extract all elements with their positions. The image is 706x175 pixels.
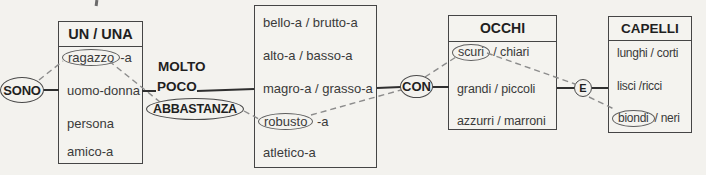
item-rest: / neri bbox=[655, 111, 680, 125]
diagram-canvas: UN / UNA ragazzo-a uomo-donna persona am… bbox=[0, 0, 706, 175]
box-un-una-title: UN / UNA bbox=[59, 22, 142, 47]
node-abbastanza: ABBASTANZA bbox=[146, 98, 244, 120]
list-item-amico: amico-a bbox=[67, 143, 141, 161]
box-capelli-title: CAPELLI bbox=[609, 17, 691, 41]
circled-word-ragazzo: ragazzo bbox=[62, 49, 120, 66]
list-item-lunghi: lunghi / corti bbox=[617, 44, 690, 62]
list-item-ragazzo: ragazzo-a bbox=[67, 49, 141, 67]
list-item-grandi: grandi / piccoli bbox=[457, 80, 555, 98]
item-rest: -a bbox=[313, 114, 328, 129]
label-molto: MOLTO bbox=[158, 58, 206, 76]
list-item-persona: persona bbox=[67, 115, 141, 133]
list-item-atletico: atletico-a bbox=[263, 144, 375, 162]
circled-word-robusto: robusto bbox=[258, 113, 313, 130]
node-e: E bbox=[574, 79, 592, 97]
list-item-magro: magro-a / grasso-a bbox=[263, 80, 375, 98]
box-occhi: OCCHI scuri / chiari grandi / piccoli az… bbox=[448, 15, 557, 130]
list-item-scuri: scuri / chiari bbox=[457, 43, 555, 61]
list-item-bello: bello-a / brutto-a bbox=[263, 14, 375, 32]
list-item-uomo-donna: uomo-donna bbox=[67, 82, 141, 100]
page-crop-artifact bbox=[95, 0, 98, 6]
box-occhi-title: OCCHI bbox=[449, 16, 556, 42]
list-item-robusto: robusto -a bbox=[263, 113, 375, 131]
circled-word-scuri: scuri bbox=[452, 44, 490, 61]
list-item-alto: alto-a / basso-a bbox=[263, 47, 375, 65]
list-item-lisci: lisci /ricci bbox=[617, 77, 690, 95]
box-un-una: UN / UNA ragazzo-a uomo-donna persona am… bbox=[58, 21, 143, 164]
item-rest: -a bbox=[120, 50, 132, 65]
label-poco: POCO bbox=[157, 78, 197, 96]
list-item-azzurri: azzurri / marroni bbox=[457, 112, 555, 130]
box-capelli: CAPELLI lunghi / corti lisci /ricci bion… bbox=[608, 16, 692, 133]
circled-word-biondi: biondi bbox=[612, 110, 655, 127]
node-con: CON bbox=[400, 75, 433, 98]
item-rest: / chiari bbox=[490, 45, 529, 59]
list-item-biondi: biondi/ neri bbox=[617, 109, 690, 127]
box-adjectives: bello-a / brutto-a alto-a / basso-a magr… bbox=[254, 5, 377, 168]
node-sono: SONO bbox=[0, 77, 44, 103]
